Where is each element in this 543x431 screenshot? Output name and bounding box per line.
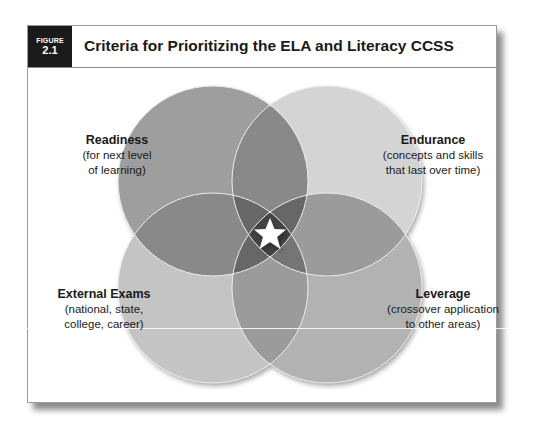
label-readiness: Readiness (for next level of learning) bbox=[62, 133, 172, 178]
label-external-exams: External Exams (national, state, college… bbox=[44, 287, 164, 332]
venn-diagram bbox=[0, 0, 543, 431]
label-endurance: Endurance (concepts and skills that last… bbox=[368, 133, 498, 178]
label-leverage: Leverage (crossover application to other… bbox=[373, 287, 513, 332]
